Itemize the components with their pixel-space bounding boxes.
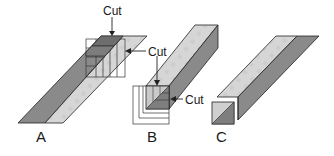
cut-label-a-top: Cut bbox=[103, 4, 122, 18]
panel-label-a: A bbox=[36, 128, 46, 145]
panel-label-c: C bbox=[216, 128, 227, 145]
arrow-head-icon bbox=[109, 31, 115, 36]
cut-label-a-side: Cut bbox=[148, 45, 167, 59]
panel-c: C bbox=[212, 36, 319, 145]
cutting-diagram: Cut Cut A Cut B bbox=[0, 0, 334, 156]
cut-label-b: Cut bbox=[185, 93, 204, 107]
panel-b: Cut B bbox=[133, 25, 218, 145]
panel-label-b: B bbox=[147, 128, 157, 145]
